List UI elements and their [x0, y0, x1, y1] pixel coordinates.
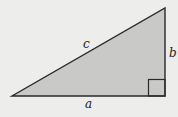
label-c: c [83, 37, 90, 51]
right-triangle [12, 8, 165, 96]
triangle-diagram: c b a [0, 0, 178, 117]
label-b: b [169, 46, 177, 60]
label-a: a [85, 97, 92, 111]
